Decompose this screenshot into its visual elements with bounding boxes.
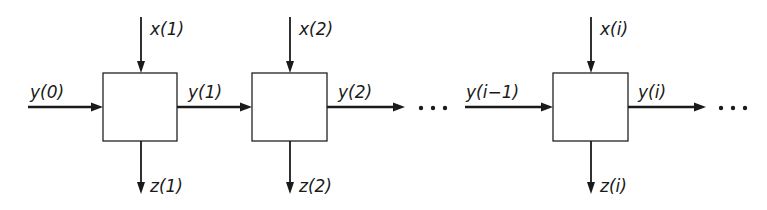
pipeline-diagram: y(0) x(1) y(1) z(1) x(2) y(2) z(2) — [0, 0, 767, 210]
arrow-right-icon — [541, 103, 553, 112]
cell-i: y(i−1) x(i) y(i) z(i) — [465, 17, 706, 196]
bottom-output-label: z(2) — [298, 176, 332, 196]
ellipsis-end — [719, 106, 747, 110]
arrow-down-icon — [286, 182, 294, 194]
ellipsis-dot — [419, 106, 423, 110]
top-input-label: x(2) — [298, 19, 333, 39]
ellipsis-dot — [743, 106, 747, 110]
cell-2: x(2) y(2) z(2) — [252, 17, 405, 196]
top-input-label: x(i) — [599, 19, 628, 39]
arrow-right-icon — [393, 103, 405, 112]
arrow-down-icon — [286, 61, 294, 73]
ellipsis-dot — [731, 106, 735, 110]
left-input-label: y(i−1) — [465, 82, 519, 102]
arrow-down-icon — [587, 182, 595, 194]
arrow-right-icon — [694, 103, 706, 112]
top-input-label: x(1) — [149, 19, 184, 39]
processing-cell-box — [103, 73, 177, 141]
right-output-label: y(2) — [337, 82, 372, 102]
ellipsis-middle — [419, 106, 447, 110]
ellipsis-dot — [431, 106, 435, 110]
arrow-right-icon — [240, 103, 252, 112]
cell-1: x(1) y(1) z(1) — [103, 17, 252, 196]
input-label: y(0) — [29, 82, 64, 102]
bottom-output-label: z(i) — [599, 176, 627, 196]
processing-cell-box — [252, 73, 327, 141]
ellipsis-dot — [719, 106, 723, 110]
arrow-down-icon — [137, 182, 145, 194]
arrow-down-icon — [137, 61, 145, 73]
right-output-label: y(1) — [187, 82, 222, 102]
processing-cell-box — [553, 73, 628, 141]
arrow-right-icon — [91, 103, 103, 112]
input-y0: y(0) — [28, 82, 103, 112]
bottom-output-label: z(1) — [149, 176, 183, 196]
arrow-down-icon — [587, 61, 595, 73]
right-output-label: y(i) — [637, 82, 666, 102]
ellipsis-dot — [443, 106, 447, 110]
